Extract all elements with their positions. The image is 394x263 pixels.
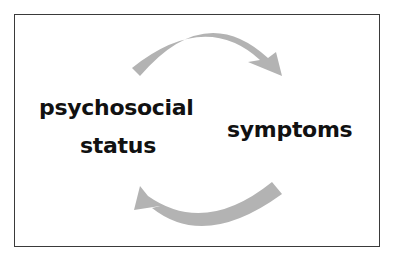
- node-psychosocial-line2: status: [80, 133, 156, 158]
- node-symptoms: symptoms: [227, 117, 352, 142]
- node-psychosocial-line1: psychosocial: [39, 95, 194, 120]
- arrow-bottom-icon: [134, 182, 282, 226]
- arrow-top-icon: [132, 33, 282, 76]
